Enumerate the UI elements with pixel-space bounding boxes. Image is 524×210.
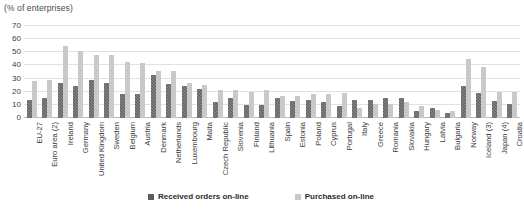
category-label: Sweden xyxy=(113,95,121,122)
y-axis-tick-30: 30 xyxy=(12,75,21,83)
legend-swatch-icon xyxy=(148,194,154,200)
category-label: Austria xyxy=(144,98,152,122)
category-tick: Croatia xyxy=(505,120,521,186)
category-tick: Sweden xyxy=(102,120,118,186)
category-tick: Romania xyxy=(381,120,397,186)
legend-swatch-icon xyxy=(295,194,301,200)
chart-legend: Received orders on-linePurchased on-line xyxy=(0,192,522,201)
category-label: Slovenia xyxy=(237,93,245,122)
category-tick: Ireland xyxy=(55,120,71,186)
category-tick: United Kingdom xyxy=(86,120,102,186)
category-tick: Portugal xyxy=(334,120,350,186)
category-label: Hungary xyxy=(423,93,431,122)
legend-item-received[interactable]: Received orders on-line xyxy=(148,192,249,201)
y-axis-tick-50: 50 xyxy=(12,48,21,56)
y-axis-tick-10: 10 xyxy=(12,101,21,109)
category-label: Luxembourg xyxy=(190,80,198,122)
category-tick: Latvia xyxy=(427,120,443,186)
category-tick: EU-27 xyxy=(24,120,40,186)
category-label: Greece xyxy=(376,97,384,122)
category-tick: Belgium xyxy=(117,120,133,186)
category-tick: Netherlands xyxy=(164,120,180,186)
category-tick: Slovenia xyxy=(226,120,242,186)
legend-item-purchased[interactable]: Purchased on-line xyxy=(295,192,374,201)
category-tick: Luxembourg xyxy=(179,120,195,186)
category-tick: Spain xyxy=(272,120,288,186)
legend-label: Purchased on-line xyxy=(305,192,374,201)
category-tick: Poland xyxy=(303,120,319,186)
category-tick: Finland xyxy=(241,120,257,186)
category-tick: Norway xyxy=(458,120,474,186)
category-label: Netherlands xyxy=(175,81,183,122)
category-label: Japan (4) xyxy=(500,90,508,122)
y-axis: 010203040506070 xyxy=(0,26,22,120)
category-label: Lithuania xyxy=(268,91,276,122)
category-axis-labels: EU-27Euro area (2)IrelandGermanyUnited K… xyxy=(24,120,520,186)
category-tick: Cyprus xyxy=(319,120,335,186)
category-tick: Japan (4) xyxy=(489,120,505,186)
category-label: Finland xyxy=(252,97,260,122)
category-tick: Estonia xyxy=(288,120,304,186)
category-label: Belgium xyxy=(128,95,136,122)
category-tick: Italy xyxy=(350,120,366,186)
category-tick: Germany xyxy=(71,120,87,186)
category-label: EU-27 xyxy=(35,100,43,122)
category-label: Cyprus xyxy=(330,98,338,122)
y-axis-tick-70: 70 xyxy=(12,22,21,30)
y-axis-tick-20: 20 xyxy=(12,88,21,96)
axis-unit-caption: (% of enterprises) xyxy=(4,3,73,13)
category-tick: Czech Republic xyxy=(210,120,226,186)
category-label: Bulgaria xyxy=(454,94,462,122)
category-tick: Bulgaria xyxy=(443,120,459,186)
category-tick: Denmark xyxy=(148,120,164,186)
category-label: Portugal xyxy=(345,94,353,122)
category-label: Euro area (2) xyxy=(51,77,59,122)
category-tick: Hungary xyxy=(412,120,428,186)
category-label: Ireland xyxy=(66,99,74,122)
y-axis-tick-60: 60 xyxy=(12,35,21,43)
legend-label: Received orders on-line xyxy=(158,192,249,201)
category-tick: Lithuania xyxy=(257,120,273,186)
category-label: Iceland (3) xyxy=(485,86,493,122)
category-label: Norway xyxy=(469,96,477,122)
category-label: Germany xyxy=(82,91,90,122)
category-label: Latvia xyxy=(438,102,446,122)
category-label: Estonia xyxy=(299,97,307,122)
category-label: Denmark xyxy=(159,91,167,122)
y-axis-tick-40: 40 xyxy=(12,61,21,69)
y-axis-tick-0: 0 xyxy=(17,114,21,122)
category-label: Romania xyxy=(392,92,400,122)
category-tick: Malta xyxy=(195,120,211,186)
category-label: United Kingdom xyxy=(97,68,105,122)
category-tick: Slovakia xyxy=(396,120,412,186)
category-label-text: Croatia xyxy=(516,122,524,146)
category-tick: Euro area (2) xyxy=(40,120,56,186)
category-label: Poland xyxy=(314,98,322,122)
category-label: Slovakia xyxy=(407,93,415,122)
category-label: Czech Republic xyxy=(221,69,229,122)
category-tick: Greece xyxy=(365,120,381,186)
category-tick: Austria xyxy=(133,120,149,186)
category-label: Croatia xyxy=(516,98,524,122)
category-tick: Iceland (3) xyxy=(474,120,490,186)
